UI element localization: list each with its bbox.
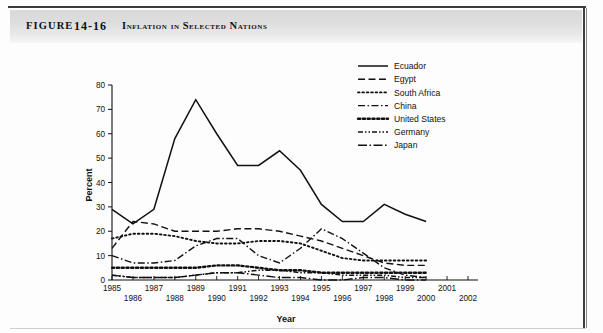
y-tick-label: 10 [96, 252, 106, 261]
y-axis-label: Percent [84, 168, 94, 201]
y-tick-label: 20 [96, 227, 106, 236]
chart-legend: EcuadorEgyptSouth AfricaChinaUnited Stat… [358, 61, 446, 150]
x-tick-label: 1995 [312, 284, 331, 293]
x-tick-label: 1993 [270, 284, 289, 293]
series-line-japan [112, 273, 426, 280]
line-chart: 01020304050607080 1985198719891991199319… [0, 0, 603, 333]
x-tick-label: 1989 [187, 284, 206, 293]
x-tick-label: 2000 [417, 294, 436, 303]
x-tick-label: 1994 [291, 294, 310, 303]
y-tick-label: 70 [96, 105, 106, 114]
y-tick-label: 40 [96, 179, 106, 188]
x-tick-label: 2001 [438, 284, 457, 293]
x-tick-label: 2002 [459, 294, 478, 303]
series-line-united-states [112, 265, 426, 272]
x-tick-label: 1985 [103, 284, 122, 293]
legend-label-ecuador: Ecuador [394, 61, 426, 71]
series-group [112, 100, 426, 280]
x-tick-label: 1999 [396, 284, 415, 293]
legend-label-egypt: Egypt [394, 74, 417, 84]
y-tick-label: 50 [96, 154, 106, 163]
x-tick-label: 1996 [333, 294, 352, 303]
x-tick-label: 1991 [229, 284, 248, 293]
x-tick-label: 1997 [354, 284, 373, 293]
x-tick-label: 1988 [166, 294, 185, 303]
y-tick-label: 60 [96, 130, 106, 139]
x-tick-label: 1992 [249, 294, 268, 303]
x-tick-label: 1998 [375, 294, 394, 303]
figure-page: FIGURE 14-16 Inflation in Selected Natio… [0, 0, 603, 333]
y-axis: 01020304050607080 [96, 81, 112, 285]
legend-label-united-states: United States [394, 114, 446, 124]
series-line-south-africa [112, 234, 426, 261]
y-tick-label: 30 [96, 203, 106, 212]
x-tick-label: 1990 [208, 294, 227, 303]
x-tick-label: 1987 [145, 284, 164, 293]
legend-label-south-africa: South Africa [394, 88, 441, 98]
legend-label-japan: Japan [394, 140, 418, 150]
x-axis-label: Year [276, 314, 296, 324]
legend-label-china: China [394, 101, 417, 111]
series-line-egypt [112, 222, 426, 266]
legend-label-germany: Germany [394, 127, 430, 137]
y-tick-label: 80 [96, 81, 106, 90]
x-tick-label: 1986 [124, 294, 143, 303]
